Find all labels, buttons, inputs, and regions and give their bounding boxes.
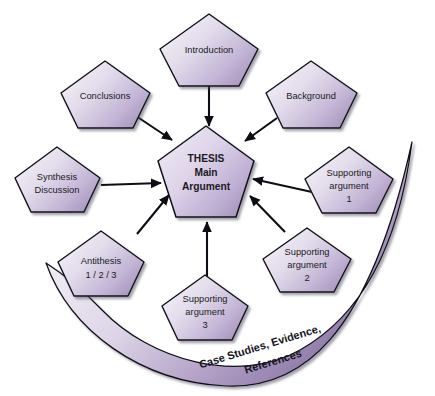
node-supporting-argument-2[interactable]: Supporting argument 2 [263,228,351,292]
diagram-canvas: Case Studies, Evidence, References Intro… [0,0,435,396]
node-antithesis[interactable]: Antithesis 1 / 2 / 3 [58,231,144,296]
node-antithesis-label-2: 1 / 2 / 3 [85,270,116,280]
node-synthesis-discussion[interactable]: Synthesis Discussion [15,147,100,212]
node-supporting-3-label-3: 3 [202,320,207,330]
node-supporting-3-label-2: argument [185,307,225,317]
arrow-supporting-1-to-thesis [253,179,312,192]
node-supporting-1-label-3: 1 [346,194,351,204]
arrow-background-to-thesis [245,118,277,141]
node-conclusions-label: Conclusions [80,91,131,101]
node-supporting-argument-3[interactable]: Supporting argument 3 [162,275,248,340]
node-introduction-label: Introduction [185,45,234,55]
node-supporting-3-label-1: Supporting [183,294,228,304]
node-thesis-label-3: Argument [182,181,231,192]
node-conclusions[interactable]: Conclusions [61,61,150,128]
node-supporting-2-label-3: 2 [304,273,309,283]
node-supporting-argument-1[interactable]: Supporting argument 1 [305,147,393,213]
arrow-supporting-2-to-thesis [250,196,285,232]
node-background[interactable]: Background [266,61,357,128]
thesis-diagram: Case Studies, Evidence, References Intro… [0,0,435,396]
arrow-antithesis-to-thesis [137,195,169,234]
node-introduction[interactable]: Introduction [160,14,258,86]
node-thesis-label-1: THESIS [188,153,225,164]
node-synthesis-label-1: Synthesis [37,172,78,182]
node-supporting-1-label-2: argument [329,181,369,191]
node-thesis-center[interactable]: THESIS Main Argument [158,126,254,217]
node-supporting-2-label-2: argument [287,260,327,270]
arrow-synthesis-to-thesis [101,183,161,185]
node-synthesis-label-2: Discussion [35,185,80,195]
node-supporting-2-label-1: Supporting [285,247,330,257]
node-antithesis-label-1: Antithesis [81,256,122,266]
node-supporting-1-label-1: Supporting [327,168,372,178]
node-thesis-label-2: Main [194,167,217,178]
node-background-label: Background [286,91,336,101]
